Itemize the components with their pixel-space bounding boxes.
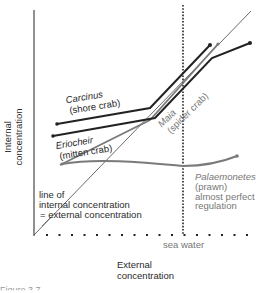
maia-endpoint (216, 42, 219, 45)
carcinus-end (208, 43, 212, 47)
diagram-canvas (0, 0, 273, 293)
eriocheir-curve (53, 43, 250, 136)
palaemonetes-label: Palaemonetes (prawn) almost perfect regu… (195, 172, 256, 211)
sea-water-label: sea water (163, 240, 204, 251)
x-axis-label-line2: concentration (117, 270, 174, 281)
palaemonetes-note-2: regulation (195, 201, 256, 211)
palaemonetes-end (235, 154, 239, 158)
y-axis-label: Internal concentration (2, 102, 24, 172)
palaemonetes-curve (62, 156, 237, 166)
x-axis-label: External concentration (117, 259, 174, 281)
identity-line-label: line of internal concentration = externa… (39, 190, 142, 220)
carcinus-start (55, 122, 59, 126)
identity-label-3: = external concentration (40, 210, 142, 220)
eriocheir-end (248, 41, 252, 45)
eriocheir-start (51, 134, 55, 138)
y-axis-label-line2: concentration (13, 102, 24, 172)
y-axis-label-line1: Internal (2, 102, 13, 172)
x-axis-label-line1: External (117, 259, 174, 270)
palaemonetes-start (60, 162, 63, 165)
